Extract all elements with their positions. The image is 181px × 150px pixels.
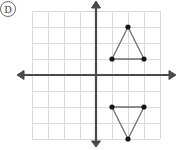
vertex-point [109,104,114,109]
y-axis-arrow-up-icon [92,1,101,8]
vertex-point [141,56,146,61]
vertex-point [125,24,130,29]
x-axis-arrow-left-icon [17,71,24,80]
coordinate-plane [0,0,181,150]
vertex-point [125,136,130,141]
axes [17,1,176,147]
vertex-point [109,56,114,61]
y-axis-arrow-down-icon [92,141,101,147]
answer-choice-figure: D [0,0,181,150]
x-axis-arrow-right-icon [169,71,176,80]
vertex-point [141,104,146,109]
